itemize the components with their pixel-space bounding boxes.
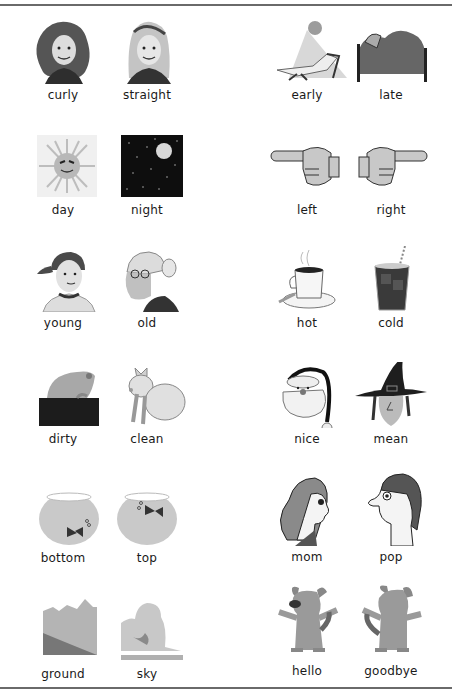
cold-drink-icon	[351, 246, 431, 312]
word-label: right	[346, 203, 436, 217]
card-night: night	[102, 133, 192, 199]
word-label: straight	[102, 88, 192, 102]
witch-face-icon	[351, 362, 431, 428]
word-label: mom	[262, 550, 352, 564]
moon-stars-icon	[107, 133, 187, 199]
fishbowl-bottom-icon	[23, 481, 103, 547]
word-label: left	[262, 203, 352, 217]
word-label: top	[102, 551, 192, 565]
card-left: left	[262, 133, 352, 199]
card-straight: straight	[102, 18, 192, 84]
dirty-pig-icon	[23, 362, 103, 428]
card-hello: hello	[262, 584, 352, 662]
word-label: nice	[262, 432, 352, 446]
dog-back-icon	[351, 584, 431, 662]
top-rule	[0, 4, 452, 6]
word-label: hot	[262, 316, 352, 330]
card-bottom: bottom	[18, 481, 108, 547]
card-pop: pop	[346, 470, 436, 546]
old-woman-icon	[107, 246, 187, 312]
dog-front-icon	[267, 584, 347, 662]
word-label: night	[102, 203, 192, 217]
card-top: top	[102, 481, 192, 547]
word-label: curly	[18, 88, 108, 102]
word-label: clean	[102, 432, 192, 446]
card-clean: clean	[102, 362, 192, 428]
card-hot: hot	[262, 246, 352, 312]
sun-icon	[23, 133, 103, 199]
sky-clouds-icon	[107, 597, 187, 663]
word-label: dirty	[18, 432, 108, 446]
card-mom: mom	[262, 470, 352, 546]
card-curly: curly	[18, 18, 108, 84]
card-cold: cold	[346, 246, 436, 312]
word-label: young	[18, 316, 108, 330]
sunbather-icon	[267, 18, 347, 84]
pop-profile-icon	[351, 470, 431, 546]
word-label: mean	[346, 432, 436, 446]
hand-point-right-icon	[351, 133, 431, 199]
word-label: day	[18, 203, 108, 217]
card-young: young	[18, 246, 108, 312]
ground-landscape-icon	[23, 597, 103, 663]
curly-hair-girl-icon	[23, 18, 103, 84]
hot-coffee-icon	[267, 246, 347, 312]
word-label: hello	[262, 664, 352, 678]
word-label: old	[102, 316, 192, 330]
word-label: late	[346, 88, 436, 102]
hand-point-left-icon	[267, 133, 347, 199]
sleeping-bed-icon	[351, 18, 431, 84]
card-ground: ground	[18, 597, 108, 663]
clean-pig-icon	[107, 362, 187, 428]
card-late: late	[346, 18, 436, 84]
straight-hair-girl-icon	[107, 18, 187, 84]
word-label: pop	[346, 550, 436, 564]
card-nice: nice	[262, 362, 352, 428]
card-right: right	[346, 133, 436, 199]
card-early: early	[262, 18, 352, 84]
word-label: ground	[18, 667, 108, 681]
word-label: bottom	[18, 551, 108, 565]
word-label: early	[262, 88, 352, 102]
word-label: sky	[102, 667, 192, 681]
bottom-rule	[0, 687, 452, 689]
card-old: old	[102, 246, 192, 312]
mom-profile-icon	[267, 470, 347, 546]
card-mean: mean	[346, 362, 436, 428]
card-sky: sky	[102, 597, 192, 663]
card-goodbye: goodbye	[346, 584, 436, 662]
card-dirty: dirty	[18, 362, 108, 428]
santa-face-icon	[267, 362, 347, 428]
young-boy-icon	[23, 246, 103, 312]
word-label: cold	[346, 316, 436, 330]
card-day: day	[18, 133, 108, 199]
word-label: goodbye	[346, 664, 436, 678]
fishbowl-top-icon	[107, 481, 187, 547]
